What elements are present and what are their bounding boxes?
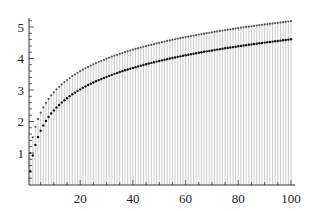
data-point xyxy=(134,66,136,68)
data-point xyxy=(111,56,113,58)
data-point xyxy=(153,61,155,63)
data-point xyxy=(100,78,102,80)
data-point xyxy=(42,106,44,108)
data-point xyxy=(192,53,194,55)
data-point xyxy=(34,126,36,128)
data-point xyxy=(261,42,263,44)
data-point xyxy=(145,63,147,65)
data-point xyxy=(219,48,221,50)
data-point xyxy=(45,120,47,122)
data-point xyxy=(100,60,102,62)
data-point xyxy=(200,51,202,53)
data-point xyxy=(32,136,34,138)
data-point xyxy=(224,29,226,31)
data-point xyxy=(240,27,242,29)
data-point xyxy=(271,40,273,42)
data-point xyxy=(87,66,89,68)
data-point xyxy=(250,25,252,27)
data-point xyxy=(211,31,213,33)
data-point xyxy=(282,21,284,23)
data-point xyxy=(137,47,139,49)
data-point xyxy=(158,60,160,62)
data-point xyxy=(216,30,218,32)
data-point xyxy=(200,33,202,35)
x-tick-label: 60 xyxy=(179,191,192,206)
data-point xyxy=(90,64,92,66)
series-lower-points xyxy=(29,38,292,172)
data-point xyxy=(285,21,287,23)
data-point xyxy=(219,30,221,32)
data-point xyxy=(177,38,179,40)
data-point xyxy=(95,62,97,64)
data-point xyxy=(47,98,49,100)
data-point xyxy=(203,33,205,35)
data-point xyxy=(45,102,47,104)
data-point xyxy=(116,54,118,56)
data-point xyxy=(113,55,115,57)
data-point xyxy=(192,34,194,36)
data-point xyxy=(126,68,128,70)
x-tick-label: 100 xyxy=(281,191,301,206)
data-point xyxy=(155,60,157,62)
data-point xyxy=(103,77,105,79)
data-point xyxy=(148,62,150,64)
data-point xyxy=(61,101,63,103)
data-point xyxy=(184,54,186,56)
data-point xyxy=(132,67,134,69)
data-point xyxy=(261,24,263,26)
data-point xyxy=(269,41,271,43)
data-point xyxy=(224,47,226,49)
data-point xyxy=(287,38,289,40)
y-tick-label: 3 xyxy=(18,83,25,98)
data-point xyxy=(158,42,160,44)
data-point xyxy=(63,99,65,101)
data-point xyxy=(198,33,200,35)
data-point xyxy=(129,67,131,69)
data-point xyxy=(142,46,144,48)
data-point xyxy=(176,56,178,58)
data-point xyxy=(58,104,60,106)
data-point xyxy=(105,76,107,78)
data-point xyxy=(195,34,197,36)
chart: 12345 20406080100 xyxy=(0,0,320,211)
data-point xyxy=(221,48,223,50)
data-point xyxy=(121,52,123,54)
data-point xyxy=(103,59,105,61)
data-point xyxy=(250,43,252,45)
data-point xyxy=(179,37,181,39)
data-point xyxy=(105,58,107,60)
data-point xyxy=(290,20,292,22)
data-point xyxy=(145,45,147,47)
data-point xyxy=(271,22,273,24)
y-tick-label: 1 xyxy=(18,146,25,161)
data-point xyxy=(74,73,76,75)
data-point xyxy=(290,38,292,40)
data-point xyxy=(71,93,73,95)
x-tick-label: 40 xyxy=(126,191,139,206)
data-point xyxy=(258,24,260,26)
data-point xyxy=(190,35,192,37)
data-point xyxy=(53,109,55,111)
data-point xyxy=(213,49,215,51)
x-tick-label: 20 xyxy=(74,191,87,206)
y-tick-label: 5 xyxy=(18,20,25,35)
data-point xyxy=(221,29,223,31)
data-point xyxy=(242,26,244,28)
data-point xyxy=(84,85,86,87)
data-point xyxy=(245,26,247,28)
data-point xyxy=(119,53,121,55)
data-point xyxy=(166,58,168,60)
data-point xyxy=(182,37,184,39)
data-point xyxy=(245,44,247,46)
data-point xyxy=(187,35,189,37)
data-point xyxy=(253,25,255,27)
data-point xyxy=(248,25,250,27)
data-point xyxy=(82,69,84,71)
data-point xyxy=(258,42,260,44)
data-point xyxy=(232,46,234,48)
data-point xyxy=(61,83,63,85)
data-point xyxy=(148,44,150,46)
data-point xyxy=(82,87,84,89)
data-point xyxy=(198,52,200,54)
data-point xyxy=(92,63,94,65)
